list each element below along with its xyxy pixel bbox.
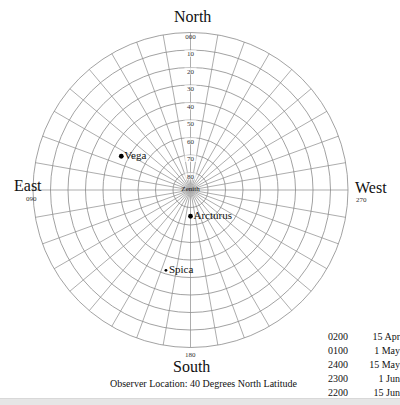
north-label: North [174,9,211,25]
west-azimuth-label: 270 [356,197,367,204]
altitude-label: 40 [187,103,195,111]
time-value: 2300 [328,372,362,386]
west-label: West [355,180,387,196]
star-label-vega: Vega [124,149,146,161]
date-value: 15 May [362,358,400,372]
altitude-label: 20 [187,68,195,76]
star-dot-vega [119,154,124,159]
altitude-label: 60 [187,138,195,146]
date-value: 1 Jun [362,372,400,386]
time-row: 01001 May [328,344,400,358]
altitude-label: 10 [187,50,195,58]
star-label-arcturus: Arcturus [194,209,233,221]
east-label: East [14,178,42,194]
star-label-spica: Spica [169,263,194,275]
star-dot-arcturus [188,214,193,219]
altitude-label: 80 [187,173,195,181]
time-value: 0100 [328,344,362,358]
altitude-label: 50 [187,120,195,128]
altitude-label: 30 [187,85,195,93]
date-value: 1 May [362,344,400,358]
altitude-label: 70 [187,155,195,163]
time-row: 23001 Jun [328,372,400,386]
time-value: 0200 [328,330,362,344]
time-row: 020015 Apr [328,330,400,344]
star-dot-spica [165,269,168,272]
zenith-label: Zenith [181,185,200,193]
altitude-labels: 0001020304050607080 [185,33,197,181]
time-row: 240015 May [328,358,400,372]
time-date-table: 020015 Apr 01001 May 240015 May 23001 Ju… [328,330,400,400]
east-azimuth-label: 090 [26,196,37,203]
observer-location-note: Observer Location: 40 Degrees North Lati… [110,378,297,389]
chart-grid: Zenith [33,33,348,348]
bottom-bar [0,398,400,405]
south-label: South [173,359,210,375]
date-value: 15 Apr [362,330,400,344]
time-value: 2400 [328,358,362,372]
altitude-label: 000 [185,33,196,41]
